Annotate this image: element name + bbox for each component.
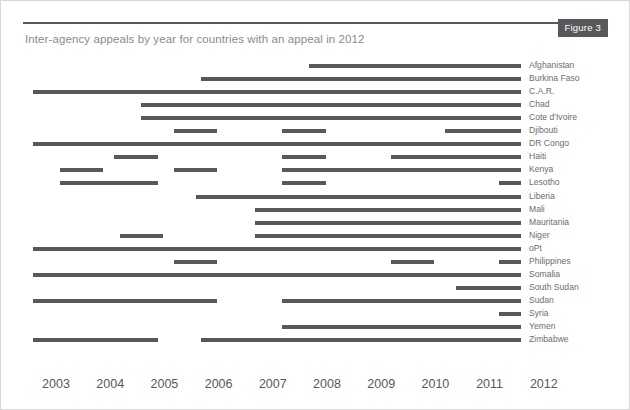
category-label: Somalia — [529, 268, 560, 281]
bar-segment — [445, 129, 521, 133]
chart-row: Kenya — [1, 164, 630, 177]
bar-segment — [174, 168, 217, 172]
chart-row: Haiti — [1, 151, 630, 164]
chart-row: Djibouti — [1, 125, 630, 138]
bar-segment — [141, 103, 520, 107]
category-label: South Sudan — [529, 281, 579, 294]
chart-row: Liberia — [1, 191, 630, 204]
bar-segment — [141, 116, 520, 120]
category-label: Syria — [529, 307, 549, 320]
bar-segment — [33, 90, 521, 94]
bar-segment — [282, 181, 325, 185]
bar-segment — [391, 155, 521, 159]
figure-container: Figure 3 Inter-agency appeals by year fo… — [0, 0, 630, 410]
chart-row: Chad — [1, 99, 630, 112]
chart-row: Niger — [1, 230, 630, 243]
x-axis-tick-label: 2005 — [150, 377, 178, 391]
bar-segment — [309, 64, 520, 68]
chart-row: Sudan — [1, 295, 630, 308]
chart-row: Mauritania — [1, 217, 630, 230]
category-label: Afghanistan — [529, 59, 574, 72]
bar-segment — [255, 234, 521, 238]
bar-segment — [60, 168, 103, 172]
category-label: Liberia — [529, 190, 555, 203]
x-axis-tick-label: 2009 — [367, 377, 395, 391]
x-axis-tick-label: 2008 — [313, 377, 341, 391]
chart-plot-area: AfghanistanBurkina FasoC.A.R.ChadCote d'… — [1, 1, 630, 410]
bar-segment — [282, 168, 520, 172]
bar-segment — [196, 195, 521, 199]
bar-segment — [255, 221, 521, 225]
bar-segment — [33, 273, 521, 277]
category-label: Yemen — [529, 320, 555, 333]
category-label: Haiti — [529, 150, 546, 163]
bar-segment — [33, 142, 521, 146]
bar-segment — [174, 129, 217, 133]
category-label: Philippines — [529, 255, 571, 268]
chart-row: South Sudan — [1, 282, 630, 295]
bar-segment — [282, 155, 325, 159]
bar-segment — [33, 299, 217, 303]
chart-row: Somalia — [1, 269, 630, 282]
category-label: Chad — [529, 98, 550, 111]
bar-segment — [201, 338, 521, 342]
chart-row: Cote d'Ivoire — [1, 112, 630, 125]
bar-segment — [33, 247, 521, 251]
category-label: Burkina Faso — [529, 72, 580, 85]
x-axis-tick-label: 2012 — [530, 377, 558, 391]
bar-segment — [282, 129, 325, 133]
x-axis-tick-label: 2004 — [96, 377, 124, 391]
bar-segment — [60, 181, 158, 185]
chart-row: Zimbabwe — [1, 334, 630, 347]
chart-row: Mali — [1, 204, 630, 217]
x-axis-tick-label: 2011 — [476, 377, 503, 391]
bar-segment — [282, 325, 520, 329]
bar-segment — [499, 181, 521, 185]
category-label: Cote d'Ivoire — [529, 111, 577, 124]
category-label: Mauritania — [529, 216, 569, 229]
bar-segment — [114, 155, 157, 159]
chart-row: DR Congo — [1, 138, 630, 151]
category-label: Zimbabwe — [529, 333, 569, 346]
chart-row: Yemen — [1, 321, 630, 334]
category-label: Lesotho — [529, 176, 560, 189]
bar-segment — [255, 208, 521, 212]
bar-segment — [201, 77, 521, 81]
chart-row: oPt — [1, 243, 630, 256]
chart-row: Lesotho — [1, 177, 630, 190]
chart-row: Syria — [1, 308, 630, 321]
x-axis-tick-label: 2003 — [42, 377, 70, 391]
category-label: Kenya — [529, 163, 553, 176]
bar-segment — [391, 260, 434, 264]
category-label: oPt — [529, 242, 542, 255]
chart-row: Afghanistan — [1, 60, 630, 73]
category-label: DR Congo — [529, 137, 569, 150]
category-label: Niger — [529, 229, 550, 242]
bar-segment — [499, 260, 521, 264]
category-label: Mali — [529, 203, 545, 216]
x-axis-tick-label: 2010 — [421, 377, 449, 391]
chart-row: Philippines — [1, 256, 630, 269]
category-label: Djibouti — [529, 124, 558, 137]
x-axis-tick-label: 2007 — [259, 377, 287, 391]
category-label: Sudan — [529, 294, 554, 307]
bar-segment — [499, 312, 521, 316]
chart-row: Burkina Faso — [1, 73, 630, 86]
bar-segment — [174, 260, 217, 264]
chart-row: C.A.R. — [1, 86, 630, 99]
bar-segment — [282, 299, 520, 303]
bar-segment — [120, 234, 163, 238]
x-axis-tick-label: 2006 — [205, 377, 233, 391]
bar-segment — [33, 338, 158, 342]
category-label: C.A.R. — [529, 85, 554, 98]
bar-segment — [456, 286, 521, 290]
